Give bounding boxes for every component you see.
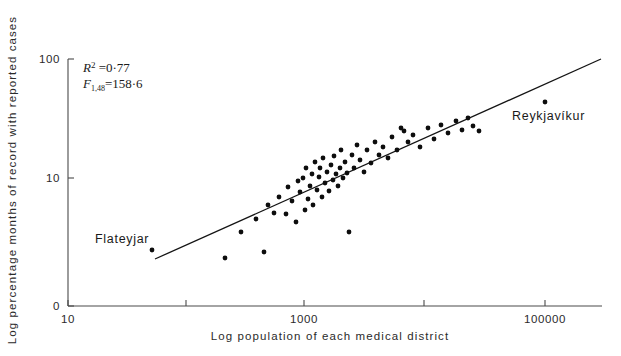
data-point [320, 195, 325, 200]
plot-canvas: 101000100000010100 FlateyjarReykjavíkur … [0, 0, 621, 356]
data-point [311, 203, 316, 208]
data-point [313, 160, 318, 165]
data-point [329, 163, 334, 168]
x-tick-label-10: 10 [61, 313, 75, 325]
data-point [304, 166, 309, 171]
data-point [471, 124, 476, 129]
data-point [411, 133, 416, 138]
y-tick-label-10: 10 [46, 172, 60, 184]
data-point [294, 220, 299, 225]
data-point [334, 172, 339, 177]
data-point [355, 143, 360, 148]
data-point [318, 166, 323, 171]
data-point [466, 116, 471, 121]
data-point [352, 166, 357, 171]
data-point [254, 217, 259, 222]
data-point [339, 148, 344, 153]
data-point [477, 129, 482, 134]
data-point [303, 208, 308, 213]
data-point [358, 158, 363, 163]
data-point [386, 156, 391, 161]
data-point [336, 184, 341, 189]
data-point [310, 172, 315, 177]
data-point [296, 179, 301, 184]
data-point [262, 250, 267, 255]
data-point [298, 190, 303, 195]
data-point [327, 189, 332, 194]
data-point [290, 199, 295, 204]
tick-labels-group: 101000100000010100 [39, 53, 566, 325]
data-point [331, 178, 336, 183]
y-tick-label-0: 0 [53, 300, 60, 312]
data-point [323, 181, 328, 186]
data-point [439, 123, 444, 128]
regression-line [155, 59, 601, 259]
data-point [406, 140, 411, 145]
data-point [432, 137, 437, 142]
data-point [369, 161, 374, 166]
data-point [446, 131, 451, 136]
x-axis-title: Log population of each medical district [211, 330, 450, 342]
point-label-reykjavíkur: Reykjavíkur [512, 109, 585, 123]
data-point [418, 145, 423, 150]
data-point [223, 256, 228, 261]
data-point [454, 119, 459, 124]
data-point [284, 212, 289, 217]
x-tick-label-100000: 100000 [524, 313, 566, 325]
point-label-flateyjar: Flateyjar [95, 232, 149, 246]
data-point [272, 211, 277, 216]
data-point [395, 148, 400, 153]
y-tick-label-100: 100 [39, 53, 60, 65]
data-point [347, 230, 352, 235]
axes-group [68, 59, 602, 306]
data-point [362, 170, 367, 175]
data-point [460, 128, 465, 133]
data-point [343, 160, 348, 165]
data-point [345, 171, 350, 176]
data-point [402, 129, 407, 134]
r-squared-annotation: R2 =0·77 [82, 60, 130, 75]
y-axis-title: Log percentage months of record with rep… [6, 16, 18, 344]
data-point [321, 156, 326, 161]
data-point [315, 188, 320, 193]
data-point [332, 154, 337, 159]
data-point [426, 126, 431, 131]
data-point [286, 185, 291, 190]
f-statistic-annotation: F1,48=158·6 [82, 76, 143, 93]
data-point [377, 153, 382, 158]
axis-titles-group: Log population of each medical districtL… [6, 16, 449, 344]
data-point [390, 135, 395, 140]
data-point [306, 197, 311, 202]
data-point [338, 166, 343, 171]
data-point [266, 203, 271, 208]
x-tick-label-1000: 1000 [290, 313, 318, 325]
data-point [350, 153, 355, 158]
statistics-annotation: R2 =0·77F1,48=158·6 [82, 60, 143, 93]
data-point [150, 248, 155, 253]
data-point [301, 176, 306, 181]
data-point [317, 175, 322, 180]
data-point [341, 176, 346, 181]
data-point [277, 195, 282, 200]
data-point [381, 145, 386, 150]
scatter-plot-figure: 101000100000010100 FlateyjarReykjavíkur … [0, 0, 621, 356]
data-point [365, 148, 370, 153]
point-labels-group: FlateyjarReykjavíkur [95, 109, 585, 246]
data-points-group [150, 100, 548, 261]
regression-line-path [155, 59, 601, 259]
data-point [308, 184, 313, 189]
data-point [325, 170, 330, 175]
data-point [543, 100, 548, 105]
data-point [373, 140, 378, 145]
data-point [239, 230, 244, 235]
ticks-group [68, 59, 545, 306]
